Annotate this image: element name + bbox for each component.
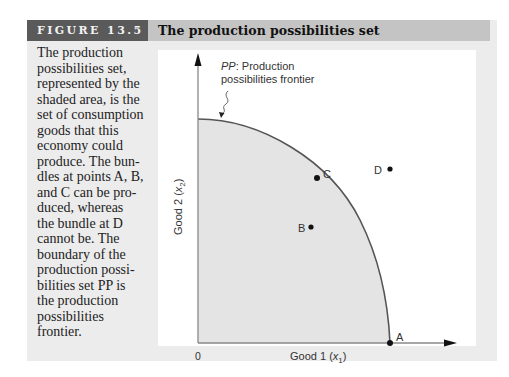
point-B-label: B: [298, 222, 305, 234]
point-B: [308, 224, 313, 229]
point-A: [387, 340, 393, 346]
y-axis-label: Good 2 (x2): [172, 179, 187, 235]
origin-label: 0: [195, 350, 201, 362]
x-axis-label: Good 1 (x1): [290, 350, 346, 365]
production-possibilities-chart: PP: Production possibilities frontier A …: [0, 0, 509, 377]
point-C: [314, 175, 320, 181]
point-D: [387, 166, 392, 171]
point-A-label: A: [396, 331, 404, 343]
x-axis-arrow-icon: [444, 340, 457, 347]
production-set-shaded-area: [198, 119, 390, 343]
point-D-label: D: [374, 164, 382, 176]
y-axis-arrow-icon: [195, 53, 202, 66]
annotation-arrow-icon: [219, 112, 225, 118]
frontier-annotation-line2: possibilities frontier: [221, 73, 315, 85]
point-C-label: C: [323, 168, 331, 180]
frontier-annotation-line1: PP: Production: [221, 60, 294, 72]
annotation-leader-line: [222, 91, 228, 114]
